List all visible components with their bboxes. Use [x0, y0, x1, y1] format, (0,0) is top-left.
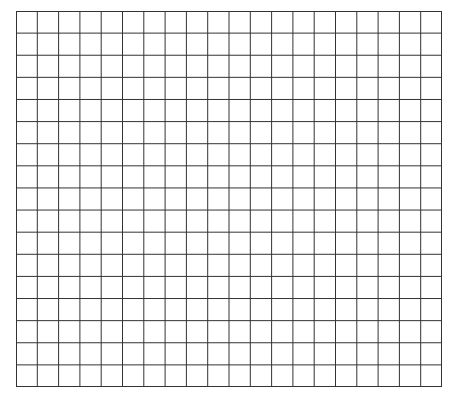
blank-grid [16, 11, 442, 387]
